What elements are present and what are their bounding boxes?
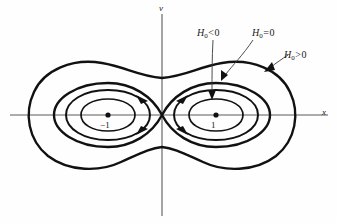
h-value: 0 (214, 27, 219, 38)
fixed-point-left-center (105, 112, 110, 117)
fixed-point-label-left: −1 (100, 121, 110, 130)
v-axis-label: v (159, 4, 163, 13)
h-value: 0 (269, 27, 274, 38)
fixed-point-label-right: 1 (211, 121, 216, 130)
x-axis-label: x (322, 108, 326, 117)
leader-arrow-h-zero (221, 70, 228, 81)
annotation-label-h-zero: H0=0 (252, 28, 274, 40)
axes-group (10, 14, 328, 216)
annotation-label-h-positive: H0>0 (284, 50, 306, 62)
leader-arrow-h-positive (264, 62, 275, 72)
phase-portrait-figure: v x −1 1 H0<0 H0=0 H0>0 (0, 0, 337, 223)
annotation-label-h-negative: H0<0 (197, 28, 219, 40)
h-value: 0 (301, 49, 306, 60)
leader-line-h-zero (226, 40, 253, 74)
phase-portrait-canvas (0, 0, 337, 223)
fixed-point-right-center (213, 112, 218, 117)
